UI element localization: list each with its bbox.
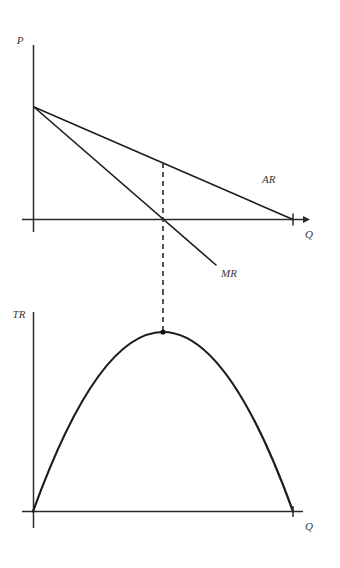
bottom-panel: TR Q	[13, 290, 313, 532]
q-axis-label-bottom: Q	[305, 520, 313, 532]
revenue-diagram: P Q AR MR TR Q	[0, 0, 340, 568]
tr-axis-label: TR	[13, 308, 26, 320]
tr-curve	[33, 332, 293, 512]
p-axis-label: P	[16, 34, 24, 46]
q-axis-arrow-top	[303, 216, 310, 223]
mr-curve	[34, 107, 216, 265]
mr-curve-label: MR	[220, 267, 237, 279]
top-panel: P Q AR MR	[16, 34, 313, 290]
figure-container: P Q AR MR TR Q	[0, 0, 340, 568]
q-axis-label-top: Q	[305, 228, 313, 240]
tr-maximum-point	[160, 329, 165, 334]
ar-curve-label: AR	[261, 173, 276, 185]
